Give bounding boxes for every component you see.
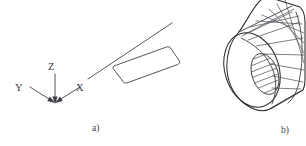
- z-axis-label: Z: [48, 61, 54, 72]
- blade-ridge-line: [270, 64, 304, 70]
- panel-b-caption: b): [281, 125, 289, 136]
- blade-ridge-line: [273, 76, 303, 82]
- bore-hatching-group: [246, 50, 284, 103]
- flat-plate-shape: [113, 47, 180, 83]
- flat-plate-outline: [113, 47, 180, 83]
- panel-a-caption: a): [92, 123, 99, 134]
- bore-hatch-line: [256, 92, 284, 103]
- bore-hatch-line: [247, 72, 283, 86]
- z-axis-arrowhead: [52, 97, 57, 105]
- reference-edge-line: [88, 23, 172, 79]
- y-axis-label: Y: [15, 82, 23, 93]
- technical-figure: Z Y X: [0, 0, 306, 146]
- coordinate-axes-group: Z Y X: [15, 61, 84, 104]
- figure-canvas: Z Y X: [0, 0, 306, 146]
- blade-line: [269, 9, 304, 43]
- blade-ridge-line: [264, 54, 304, 55]
- blade-ridge-line: [272, 88, 301, 89]
- x-axis-label: X: [76, 82, 84, 93]
- bladed-hub-group: [215, 0, 305, 114]
